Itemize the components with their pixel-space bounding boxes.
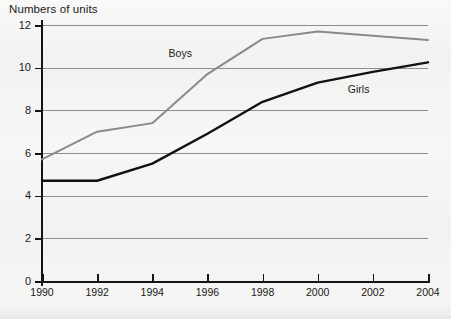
series-line-girls [42,62,428,180]
series-label-boys: Boys [169,48,192,59]
chart-screenshot: Numbers of units 024681012 1990199219941… [0,0,451,319]
series-label-girls: Girls [348,84,370,95]
series-line-boys [42,31,428,159]
series-line-group [0,0,451,319]
